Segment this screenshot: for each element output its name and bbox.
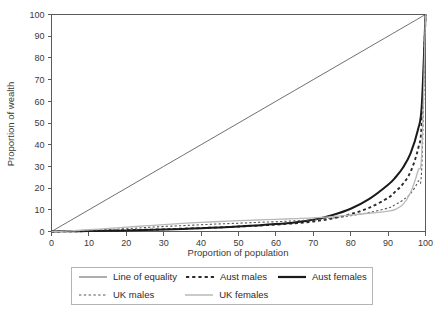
legend-label: Line of equality bbox=[113, 272, 177, 282]
y-tick-label: 20 bbox=[34, 183, 44, 193]
y-tick-label: 10 bbox=[34, 205, 44, 215]
x-tick-label: 20 bbox=[121, 238, 131, 248]
x-axis-title: Proportion of population bbox=[188, 247, 289, 258]
legend-entry-uk-females[interactable]: UK females bbox=[184, 290, 268, 300]
chart-canvas: 0102030405060708090100010203040506070809… bbox=[0, 0, 443, 312]
y-tick-label: 30 bbox=[34, 162, 44, 172]
y-tick-label: 50 bbox=[34, 118, 44, 128]
thick-dashed-swatch bbox=[185, 272, 215, 282]
x-tick-label: 90 bbox=[383, 238, 393, 248]
x-tick-label: 60 bbox=[271, 238, 281, 248]
legend-label: UK females bbox=[219, 290, 268, 300]
legend-label: Aust males bbox=[220, 272, 267, 282]
y-tick-label: 70 bbox=[34, 75, 44, 85]
chart-legend: Line of equalityAust malesAust femalesUK… bbox=[71, 267, 373, 305]
x-tick-label: 50 bbox=[233, 238, 243, 248]
legend-row: Line of equalityAust malesAust females bbox=[72, 268, 372, 286]
y-tick-label: 100 bbox=[29, 10, 44, 20]
y-tick-label: 90 bbox=[34, 31, 44, 41]
y-tick-label: 80 bbox=[34, 53, 44, 63]
x-tick-label: 10 bbox=[84, 238, 94, 248]
x-tick-label: 100 bbox=[418, 238, 433, 248]
legend-label: Aust females bbox=[312, 272, 367, 282]
y-tick-label: 40 bbox=[34, 140, 44, 150]
thick-solid-swatch bbox=[277, 272, 307, 282]
legend-entry-aust-females[interactable]: Aust females bbox=[277, 272, 367, 282]
y-axis-title: Proportion of wealth bbox=[5, 82, 16, 167]
x-tick-label: 0 bbox=[49, 238, 54, 248]
x-tick-label: 30 bbox=[159, 238, 169, 248]
thin-dotted-swatch bbox=[78, 290, 108, 300]
y-tick-label: 0 bbox=[39, 227, 44, 237]
legend-label: UK males bbox=[113, 290, 154, 300]
x-tick-label: 70 bbox=[308, 238, 318, 248]
legend-row: UK malesUK females bbox=[72, 286, 372, 304]
legend-entry-aust-males[interactable]: Aust males bbox=[185, 272, 267, 282]
series-layer bbox=[52, 15, 426, 232]
legend-entry-uk-males[interactable]: UK males bbox=[78, 290, 154, 300]
lorenz-curve-figure: 0102030405060708090100010203040506070809… bbox=[0, 0, 443, 312]
y-tick-label: 60 bbox=[34, 97, 44, 107]
thin-solid-swatch bbox=[78, 272, 108, 282]
legend-entry-line-of-equality[interactable]: Line of equality bbox=[78, 272, 177, 282]
x-tick-label: 80 bbox=[346, 238, 356, 248]
gray-solid-swatch bbox=[184, 290, 214, 300]
x-tick-label: 40 bbox=[196, 238, 206, 248]
